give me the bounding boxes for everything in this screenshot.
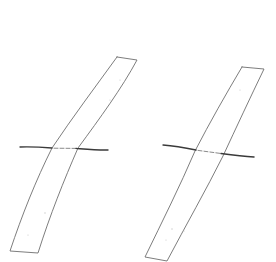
pencil-speck (27, 234, 28, 235)
right-crossbar-middle-segment (198, 150, 221, 153)
pencil-speck (239, 89, 240, 90)
right-figure (145, 67, 264, 261)
right-crossbar-left-segment (163, 145, 196, 150)
pencil-speck (171, 228, 172, 229)
sketch-svg (0, 0, 276, 262)
pencil-speck (119, 79, 120, 80)
pencil-speck (183, 230, 184, 231)
right-crossbar-right-segment (221, 154, 254, 158)
left-figure (10, 57, 137, 253)
pencil-speck (109, 99, 110, 100)
pencil-speck (44, 212, 45, 213)
sketch-canvas (0, 0, 276, 262)
left-strip-outline (10, 57, 137, 253)
pencil-speck (165, 239, 166, 240)
right-strip-outline (145, 67, 264, 261)
left-crossbar-right-segment (76, 148, 108, 150)
left-crossbar-left-segment (20, 147, 52, 148)
